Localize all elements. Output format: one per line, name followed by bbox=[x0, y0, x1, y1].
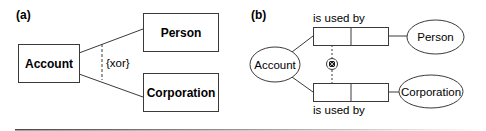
fact-type-label-upper: is used by bbox=[313, 12, 365, 24]
fact-type-box-upper[interactable] bbox=[314, 28, 389, 46]
person-class-label: Person bbox=[161, 26, 202, 40]
account-class-label: Account bbox=[25, 57, 73, 71]
account-entity-label: Account bbox=[254, 59, 296, 71]
person-entity-label: Person bbox=[417, 31, 453, 43]
fact-type-label-lower: is used by bbox=[313, 104, 365, 116]
association-line-person bbox=[79, 29, 143, 53]
panel-b: (b) is used by is used by bbox=[250, 8, 464, 116]
account-class-box[interactable]: Account bbox=[19, 45, 80, 83]
panel-b-label: (b) bbox=[251, 8, 266, 22]
corporation-class-box[interactable]: Corporation bbox=[144, 74, 219, 112]
fact-type-box-lower[interactable] bbox=[314, 84, 389, 102]
corporation-class-label: Corporation bbox=[147, 86, 216, 100]
panel-a: (a) {xor} Account Person Corporation bbox=[16, 8, 219, 112]
panel-a-label: (a) bbox=[16, 8, 31, 22]
corporation-entity-label: Corporation bbox=[401, 86, 461, 98]
person-class-box[interactable]: Person bbox=[144, 14, 219, 52]
corporation-entity-ellipse[interactable]: Corporation bbox=[399, 75, 463, 108]
account-entity-ellipse[interactable]: Account bbox=[250, 47, 300, 82]
role-line-upper bbox=[292, 36, 313, 52]
bottom-rule-divider bbox=[15, 129, 486, 131]
association-line-corporation bbox=[79, 74, 143, 97]
role-line-lower bbox=[292, 77, 313, 92]
xor-constraint-label: {xor} bbox=[106, 57, 130, 69]
person-entity-ellipse[interactable]: Person bbox=[407, 20, 464, 54]
exclusion-or-icon bbox=[327, 59, 338, 70]
diagram-canvas: (a) {xor} Account Person Corporation (b) bbox=[0, 0, 486, 131]
